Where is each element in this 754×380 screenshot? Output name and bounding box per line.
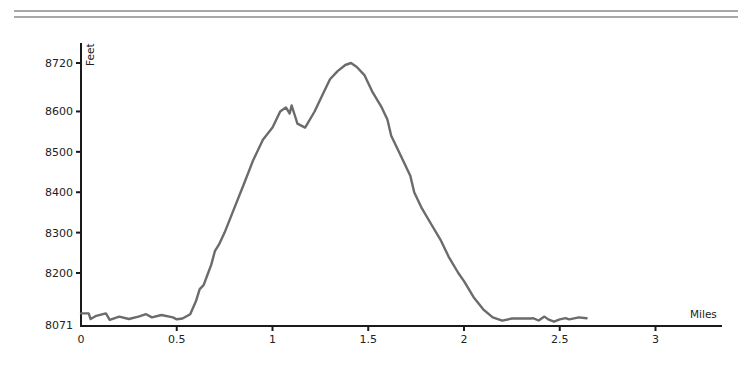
y-tick-label: 8071 <box>45 319 73 332</box>
x-tick-label: 0 <box>78 333 85 346</box>
x-tick-label: 3 <box>652 333 659 346</box>
y-tick-label: 8600 <box>45 105 73 118</box>
elevation-line <box>81 63 587 322</box>
x-tick-label: 0.5 <box>168 333 186 346</box>
x-axis: 00.511.522.53 <box>78 326 723 346</box>
y-tick-label: 8720 <box>45 57 73 70</box>
y-axis-title: Feet <box>84 43 96 66</box>
elevation-chart: 8071820083008400850086008720 00.511.522.… <box>0 0 754 380</box>
y-tick-label: 8500 <box>45 146 73 159</box>
x-tick-label: 2 <box>461 333 468 346</box>
y-tick-label: 8200 <box>45 267 73 280</box>
x-tick-label: 2.5 <box>551 333 569 346</box>
y-tick-label: 8300 <box>45 227 73 240</box>
x-tick-label: 1 <box>269 333 276 346</box>
x-tick-label: 1.5 <box>360 333 378 346</box>
x-axis-title: Miles <box>690 308 717 320</box>
y-tick-label: 8400 <box>45 186 73 199</box>
y-axis: 8071820083008400850086008720 <box>45 43 81 332</box>
